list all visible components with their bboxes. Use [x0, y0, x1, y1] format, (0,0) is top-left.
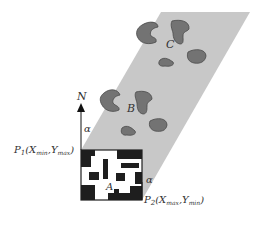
blob-c3	[187, 50, 206, 64]
p2-label: P2(Xmax,Ymin)	[143, 194, 204, 207]
region-c-label: C	[166, 38, 175, 51]
arrowhead-icon	[77, 103, 85, 112]
north-label: N	[76, 90, 87, 103]
blob-b3	[149, 119, 167, 132]
swath-diagram: C B A N α α P	[0, 0, 260, 225]
p1-label: P1(Xmin,Ymax)	[13, 144, 74, 157]
alpha-top-label: α	[84, 123, 91, 134]
alpha-bottom-label: α	[146, 174, 153, 185]
region-b-label: B	[126, 102, 135, 115]
grid-region-a	[81, 150, 142, 200]
region-a-label: A	[105, 181, 113, 192]
